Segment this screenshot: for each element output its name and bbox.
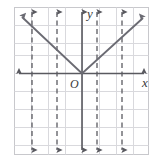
- origin-label: O: [70, 77, 79, 91]
- y-axis-label: y: [85, 6, 93, 21]
- graph-figure: y x O: [0, 0, 163, 162]
- x-axis-label: x: [141, 75, 148, 90]
- coordinate-plane-svg: y x O: [0, 0, 163, 162]
